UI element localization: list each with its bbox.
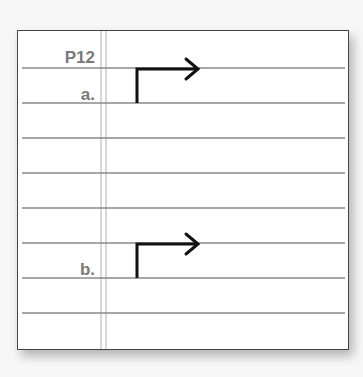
item-label-a: a.	[81, 86, 95, 103]
item-label-b: b.	[80, 261, 95, 278]
problem-number: P12	[65, 49, 95, 66]
right-angle-arrow-icon	[137, 234, 198, 278]
horizontal-rules	[22, 68, 345, 313]
ruled-lines	[0, 0, 363, 377]
right-angle-arrow-icon	[137, 59, 198, 103]
